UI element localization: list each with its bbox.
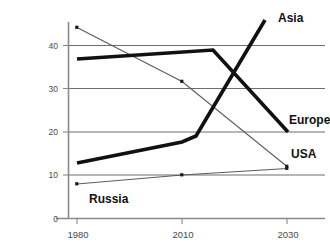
series-russia-marker-2010 (180, 173, 183, 176)
x-tick-label-1980: 1980 (67, 229, 88, 240)
y-tick-label-40: 40 (49, 41, 59, 51)
x-tick-label-2030: 2030 (277, 229, 298, 240)
y-axis-tick-labels: 40 30 20 10 0 (49, 41, 59, 224)
x-axis-tick-labels: 1980 2010 2030 (67, 229, 298, 240)
y-tick-label-30: 30 (49, 84, 59, 94)
series-label-europe: Europe (289, 113, 330, 127)
y-tick-label-20: 20 (49, 127, 59, 137)
series-usa-marker-2010 (180, 80, 183, 83)
series-usa-marker-1980 (75, 26, 78, 29)
series-label-usa: USA (291, 147, 317, 161)
series-europe-line (77, 50, 288, 132)
series-russia-marker-2030 (285, 167, 288, 170)
line-chart-canvas: 40 30 20 10 0 1980 2010 2030 (0, 0, 330, 252)
series-russia-marker-1980 (75, 182, 78, 185)
chart-figure: 40 30 20 10 0 1980 2010 2030 (0, 0, 330, 252)
y-tick-label-0: 0 (53, 214, 58, 224)
series-europe (77, 50, 288, 132)
series-label-russia: Russia (89, 192, 129, 206)
series-russia (75, 167, 288, 186)
x-tick-label-2010: 2010 (172, 229, 193, 240)
y-tick-label-10: 10 (49, 170, 59, 180)
series-label-asia: Asia (278, 11, 304, 25)
series-labels: Asia Europe USA Russia (89, 11, 330, 206)
